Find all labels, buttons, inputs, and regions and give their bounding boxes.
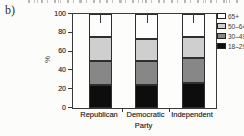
legend-swatch (217, 33, 226, 39)
plot-area (72, 13, 217, 109)
top-axis-tick (147, 14, 148, 23)
panel-label: b) (5, 3, 15, 18)
legend: 65+50–6430–4918–29 (217, 11, 244, 51)
legend-swatch (217, 23, 226, 29)
legend-item: 30–49 (217, 31, 244, 41)
bar-segment (182, 37, 205, 59)
legend-label: 50–64 (228, 23, 244, 30)
bar-segment (89, 37, 112, 61)
legend-label: 18–29 (228, 43, 244, 50)
cropped-text-artifact (28, 0, 240, 3)
y-tick-label: 0 (40, 104, 66, 112)
bar-segment (182, 58, 205, 82)
bar-segment (182, 83, 205, 108)
y-axis-tick (68, 32, 72, 33)
figure-panel-b: b) 020406080100 % Party 65+50–6430–4918–… (0, 0, 244, 136)
y-axis-tick (68, 69, 72, 70)
bar-segment (135, 61, 158, 85)
category-label: Republican (73, 110, 125, 119)
y-axis-tick (68, 51, 72, 52)
y-tick-label: 40 (40, 66, 66, 74)
category-label: Democratic (120, 110, 172, 119)
bar-segment (135, 39, 158, 61)
x-axis-tick (169, 108, 170, 112)
category-label: Independent (166, 110, 218, 119)
y-tick-label: 60 (40, 47, 66, 55)
legend-label: 65+ (228, 13, 239, 20)
bar-segment (89, 85, 112, 108)
legend-item: 18–29 (217, 41, 244, 51)
y-tick-label: 100 (40, 10, 66, 18)
y-axis-tick (68, 88, 72, 89)
y-tick-label: 20 (40, 85, 66, 93)
bar-segment (89, 61, 112, 85)
y-axis-tick (68, 13, 72, 14)
y-tick-label: 80 (40, 28, 66, 36)
top-axis-tick (193, 14, 194, 23)
legend-swatch (217, 13, 226, 19)
legend-item: 50–64 (217, 21, 244, 31)
bar-segment (135, 85, 158, 109)
y-axis-label: % (43, 56, 52, 63)
x-axis-label: Party (72, 121, 215, 130)
top-axis-tick (100, 14, 101, 23)
legend-swatch (217, 43, 226, 49)
legend-item: 65+ (217, 11, 244, 21)
x-axis-tick (122, 108, 123, 112)
legend-label: 30–49 (228, 33, 244, 40)
y-axis-tick (68, 107, 72, 108)
